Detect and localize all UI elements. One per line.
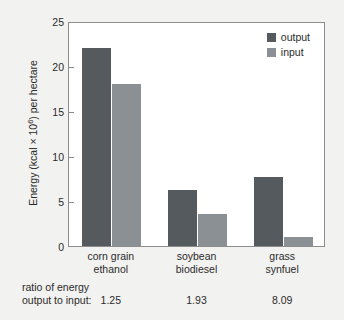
bar-output xyxy=(254,177,283,246)
x-category-label-line: ethanol xyxy=(68,263,154,276)
ratio-caption-line1: ratio of energy xyxy=(22,281,91,294)
x-category-label: corn grainethanol xyxy=(68,250,154,276)
x-category-label-line: soybean xyxy=(154,250,240,263)
x-category-label-line: biodiesel xyxy=(154,263,240,276)
plot-area: output input xyxy=(68,22,325,247)
legend-swatch-output xyxy=(267,33,276,42)
y-axis-label: Energy (kcal × 106) per hectare xyxy=(26,18,40,248)
legend-label-input: input xyxy=(281,46,304,59)
y-tick-mark xyxy=(68,67,74,68)
y-axis-ticks: 0510152025 xyxy=(44,22,64,247)
legend-item-output: output xyxy=(267,31,310,44)
y-tick-label: 5 xyxy=(58,197,64,207)
y-tick-mark xyxy=(68,112,74,113)
y-tick-label: 25 xyxy=(52,17,64,27)
x-category-label-line: synfuel xyxy=(239,263,325,276)
x-category-label: soybeanbiodiesel xyxy=(154,250,240,276)
legend-item-input: input xyxy=(267,46,310,59)
y-tick-label: 20 xyxy=(52,62,64,72)
bar-input xyxy=(112,84,141,246)
bar-input xyxy=(198,214,227,246)
x-category-label: grasssynfuel xyxy=(239,250,325,276)
y-tick-label: 0 xyxy=(58,242,64,252)
legend-label-output: output xyxy=(281,31,310,44)
y-tick-mark xyxy=(68,202,74,203)
x-axis-category-labels: corn grainethanolsoybeanbiodieselgrasssy… xyxy=(68,250,325,278)
bar-group xyxy=(82,23,141,246)
x-category-label-line: grass xyxy=(239,250,325,263)
ratio-value: 8.09 xyxy=(247,294,317,307)
ratio-value: 1.93 xyxy=(162,294,232,307)
bar-group xyxy=(168,23,227,246)
legend: output input xyxy=(267,31,310,61)
y-tick-mark xyxy=(68,157,74,158)
bar-output xyxy=(168,190,197,246)
x-category-label-line: corn grain xyxy=(68,250,154,263)
bar-input xyxy=(284,237,313,246)
y-tick-label: 15 xyxy=(52,107,64,117)
legend-swatch-input xyxy=(267,48,276,57)
y-tick-label: 10 xyxy=(52,152,64,162)
ratio-value: 1.25 xyxy=(76,294,146,307)
bar-output xyxy=(82,48,111,246)
y-axis-label-pre: Energy (kcal × 10 xyxy=(27,124,39,206)
y-axis-label-post: ) per hectare xyxy=(27,60,39,120)
y-axis-label-exponent: 6 xyxy=(26,120,35,124)
ratio-values-row: 1.251.938.09 xyxy=(68,294,325,308)
